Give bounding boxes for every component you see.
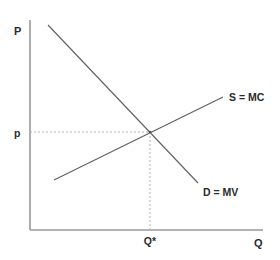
supply-curve-label: S = MC — [229, 91, 265, 103]
quantity-tick-label: Q* — [144, 235, 157, 247]
y-axis-label: P — [14, 25, 21, 37]
supply-curve — [54, 97, 223, 180]
equilibrium-point-marker — [149, 131, 152, 134]
demand-curve — [48, 25, 198, 183]
x-axis-label: Q — [254, 237, 263, 249]
supply-demand-diagram: P Q p Q* S = MC D = MV — [0, 0, 280, 260]
price-tick-label: p — [14, 127, 20, 139]
chart-canvas: P Q p Q* S = MC D = MV — [0, 0, 280, 260]
demand-curve-label: D = MV — [203, 186, 238, 198]
